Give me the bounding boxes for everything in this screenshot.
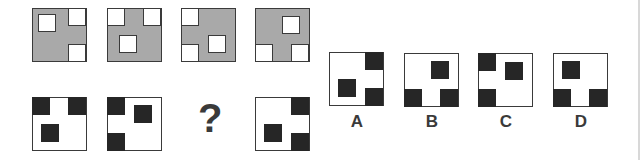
square-cell — [478, 53, 496, 71]
square-cell — [365, 52, 383, 70]
option-d-figure[interactable] — [553, 53, 608, 107]
option-label-c[interactable]: C — [478, 112, 534, 132]
square-cell — [68, 97, 86, 115]
square-cell — [291, 44, 309, 62]
option-a-figure[interactable] — [329, 52, 384, 106]
option-c-figure[interactable] — [478, 53, 533, 107]
square-cell — [181, 8, 199, 26]
square-cell — [119, 35, 137, 53]
square-cell — [264, 124, 282, 142]
row2-figure-3 — [255, 97, 310, 151]
square-cell — [291, 133, 309, 151]
square-cell — [478, 89, 496, 107]
square-cell — [38, 14, 56, 32]
option-label-d[interactable]: D — [553, 112, 609, 132]
square-cell — [255, 44, 273, 62]
square-cell — [134, 105, 152, 123]
square-cell — [338, 79, 356, 97]
square-cell — [431, 61, 449, 79]
option-b-figure[interactable] — [404, 53, 459, 107]
square-cell — [107, 8, 125, 26]
question-mark: ? — [198, 98, 222, 138]
square-cell — [107, 97, 125, 115]
row2-figure-1 — [32, 97, 87, 151]
option-label-a[interactable]: A — [329, 112, 385, 132]
square-cell — [181, 44, 199, 62]
row1-figure-2 — [107, 8, 162, 62]
square-cell — [68, 44, 86, 62]
square-cell — [562, 61, 580, 79]
square-cell — [41, 124, 59, 142]
square-cell — [68, 8, 86, 26]
square-cell — [208, 35, 226, 53]
square-cell — [589, 89, 607, 107]
square-cell — [440, 89, 458, 107]
square-cell — [107, 133, 125, 151]
row1-figure-4 — [255, 8, 310, 62]
square-cell — [553, 89, 571, 107]
row1-figure-3 — [181, 8, 236, 62]
row2-figure-2 — [107, 97, 162, 151]
option-label-b[interactable]: B — [404, 112, 460, 132]
square-cell — [365, 88, 383, 106]
square-cell — [32, 97, 50, 115]
square-cell — [505, 62, 523, 80]
row1-figure-1 — [32, 8, 87, 62]
square-cell — [404, 89, 422, 107]
square-cell — [291, 97, 309, 115]
square-cell — [282, 16, 300, 34]
square-cell — [143, 8, 161, 26]
